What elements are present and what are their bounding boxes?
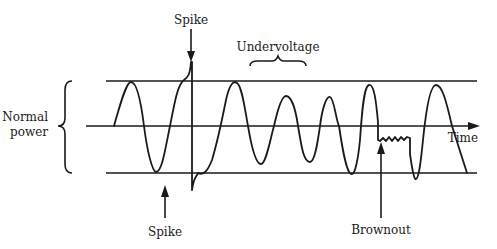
brownout-arrow-icon	[377, 142, 385, 154]
spike-bottom-arrow-icon	[161, 185, 169, 197]
normal-power-label-line1: Normal	[2, 110, 48, 124]
brownout-label: Brownout	[351, 223, 411, 237]
undervoltage-brace-icon	[250, 56, 306, 66]
spike-top-arrow-icon	[187, 51, 195, 62]
time-axis-arrowhead-icon	[468, 122, 480, 130]
spike-top-label: Spike	[174, 13, 208, 27]
spike-bottom-label: Spike	[148, 225, 182, 239]
time-axis-label: Time	[448, 131, 478, 145]
undervoltage-label: Undervoltage	[237, 40, 320, 54]
power-waveform-diagram: Normal power Spike Spike Undervoltage Ti…	[0, 0, 497, 249]
normal-power-label-line2: power	[10, 125, 48, 139]
normal-power-brace-icon	[58, 81, 72, 173]
